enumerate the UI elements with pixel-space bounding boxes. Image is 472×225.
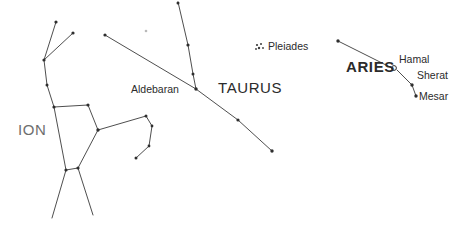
constellation-taurus [103,2,273,153]
star-marker [270,149,273,152]
pleiades-cluster-marker [255,43,264,50]
star-marker [103,33,106,36]
orion-line-bow [98,116,152,158]
orion-line-right-side [78,130,98,168]
orion-stars [42,20,153,171]
star-marker [54,20,57,23]
star-chart: ION TAURUS ARIES Aldebaran Pleiades Hama… [0,0,472,225]
star-marker [71,31,74,34]
constellation-label-aries: ARIES [346,59,395,74]
star-label-hamal: Hamal [399,54,429,65]
taurus-line-body-tail [196,89,272,151]
star-marker [96,128,99,131]
star-marker [192,73,195,76]
star-marker [177,2,180,5]
aries-line-sherat-mesar [412,85,416,96]
star-label-sherat: Sherat [417,70,448,81]
orion-lines [44,22,152,218]
constellation-orion [42,20,153,218]
star-marker [64,168,67,171]
star-marker [52,105,55,108]
field-star [145,30,148,33]
aries-line-hamal-sherat [397,70,412,85]
cluster-star [256,44,258,46]
cluster-star [262,47,264,49]
cluster-star [255,48,257,50]
star-marker [42,58,45,61]
star-marker [148,145,151,148]
star-label-aldebaran: Aldebaran [131,84,179,95]
star-marker-sherat [410,83,413,86]
star-marker-aldebaran [194,87,197,90]
taurus-lines [105,2,272,151]
cluster-star [258,47,260,49]
orion-line-left-side [54,107,66,170]
orion-line-arm-shaft [44,60,54,107]
star-marker [46,84,49,87]
star-marker [151,125,154,128]
star-marker-mesar [414,94,417,97]
star-marker [145,115,148,118]
cluster-star [260,43,262,45]
star-marker [76,166,79,169]
orion-line-leg-right [78,168,93,215]
cluster-label-pleiades: Pleiades [268,41,308,52]
taurus-line-aldebaran-branch [105,35,196,89]
star-marker [86,103,89,106]
field-stars [145,30,148,33]
orion-line-shoulders [54,105,98,130]
star-marker [186,43,189,46]
star-marker [336,39,339,42]
star-marker [135,157,138,160]
star-marker [236,118,239,121]
sky-canvas [0,0,472,225]
orion-line-belt [66,168,78,170]
orion-line-leg-left [52,170,66,218]
constellation-label-taurus: TAURUS [218,80,282,95]
constellation-label-orion: ION [18,122,46,137]
star-label-mesar: Mesar [419,91,448,102]
taurus-stars [103,2,273,153]
